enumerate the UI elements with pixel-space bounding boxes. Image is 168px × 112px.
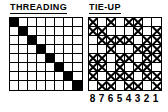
threading-cell[interactable] bbox=[10, 54, 19, 63]
threading-cell[interactable] bbox=[19, 81, 28, 90]
threading-cell[interactable] bbox=[10, 63, 19, 72]
threading-cell[interactable] bbox=[37, 18, 46, 27]
tieup-cell[interactable] bbox=[143, 36, 152, 45]
tieup-cell[interactable] bbox=[98, 27, 107, 36]
tieup-cell[interactable] bbox=[152, 27, 161, 36]
threading-cell[interactable] bbox=[55, 81, 64, 90]
threading-cell[interactable] bbox=[37, 36, 46, 45]
tieup-cell[interactable] bbox=[116, 36, 125, 45]
tieup-cell[interactable] bbox=[134, 81, 143, 90]
tieup-cell[interactable] bbox=[107, 81, 116, 90]
tieup-cell[interactable] bbox=[107, 63, 116, 72]
threading-cell[interactable] bbox=[28, 45, 37, 54]
tieup-cell[interactable] bbox=[125, 45, 134, 54]
tieup-cell[interactable] bbox=[89, 36, 98, 45]
tieup-cell[interactable] bbox=[98, 18, 107, 27]
threading-cell[interactable] bbox=[28, 63, 37, 72]
threading-cell[interactable] bbox=[19, 18, 28, 27]
threading-cell[interactable] bbox=[73, 63, 82, 72]
threading-cell[interactable] bbox=[46, 18, 55, 27]
threading-cell[interactable] bbox=[46, 63, 55, 72]
tieup-cell[interactable] bbox=[116, 81, 125, 90]
threading-cell[interactable] bbox=[19, 45, 28, 54]
tieup-cell[interactable] bbox=[89, 45, 98, 54]
tieup-cell[interactable] bbox=[107, 18, 116, 27]
tieup-cell[interactable] bbox=[134, 63, 143, 72]
tieup-cell[interactable] bbox=[152, 36, 161, 45]
tieup-cell[interactable] bbox=[152, 54, 161, 63]
tieup-cell[interactable] bbox=[98, 63, 107, 72]
threading-cell[interactable] bbox=[64, 54, 73, 63]
tieup-cell[interactable] bbox=[107, 45, 116, 54]
tieup-cell[interactable] bbox=[89, 54, 98, 63]
tieup-cell[interactable] bbox=[143, 54, 152, 63]
tieup-cell[interactable] bbox=[107, 72, 116, 81]
tieup-cell[interactable] bbox=[98, 36, 107, 45]
threading-cell[interactable] bbox=[37, 63, 46, 72]
tieup-cell[interactable] bbox=[134, 36, 143, 45]
threading-cell[interactable] bbox=[64, 18, 73, 27]
tieup-cell[interactable] bbox=[125, 18, 134, 27]
tieup-cell[interactable] bbox=[152, 18, 161, 27]
threading-cell[interactable] bbox=[10, 72, 19, 81]
tieup-cell[interactable] bbox=[125, 81, 134, 90]
tieup-cell[interactable] bbox=[143, 27, 152, 36]
threading-cell[interactable] bbox=[10, 81, 19, 90]
tieup-cell[interactable] bbox=[98, 54, 107, 63]
tieup-cell[interactable] bbox=[125, 63, 134, 72]
tieup-cell[interactable] bbox=[107, 54, 116, 63]
threading-cell[interactable] bbox=[55, 27, 64, 36]
threading-cell[interactable] bbox=[55, 72, 64, 81]
tieup-cell[interactable] bbox=[116, 72, 125, 81]
threading-cell[interactable] bbox=[10, 45, 19, 54]
threading-cell[interactable] bbox=[46, 36, 55, 45]
tieup-cell[interactable] bbox=[116, 54, 125, 63]
tieup-cell[interactable] bbox=[98, 81, 107, 90]
threading-cell[interactable] bbox=[64, 72, 73, 81]
threading-cell[interactable] bbox=[46, 54, 55, 63]
threading-cell[interactable] bbox=[64, 27, 73, 36]
tieup-cell[interactable] bbox=[143, 45, 152, 54]
tieup-cell[interactable] bbox=[152, 72, 161, 81]
threading-cell[interactable] bbox=[55, 18, 64, 27]
threading-cell[interactable] bbox=[28, 54, 37, 63]
tieup-cell[interactable] bbox=[143, 81, 152, 90]
threading-cell[interactable] bbox=[19, 54, 28, 63]
tieup-cell[interactable] bbox=[125, 27, 134, 36]
threading-grid[interactable] bbox=[9, 17, 83, 91]
tieup-cell[interactable] bbox=[89, 72, 98, 81]
threading-cell[interactable] bbox=[46, 81, 55, 90]
threading-cell[interactable] bbox=[73, 81, 82, 90]
threading-cell[interactable] bbox=[46, 72, 55, 81]
tieup-cell[interactable] bbox=[125, 72, 134, 81]
tieup-cell[interactable] bbox=[125, 54, 134, 63]
threading-cell[interactable] bbox=[73, 72, 82, 81]
tieup-cell[interactable] bbox=[134, 27, 143, 36]
tieup-cell[interactable] bbox=[98, 72, 107, 81]
threading-cell[interactable] bbox=[55, 45, 64, 54]
threading-cell[interactable] bbox=[64, 81, 73, 90]
threading-cell[interactable] bbox=[10, 27, 19, 36]
tieup-cell[interactable] bbox=[89, 27, 98, 36]
threading-cell[interactable] bbox=[28, 36, 37, 45]
tieup-cell[interactable] bbox=[134, 72, 143, 81]
threading-cell[interactable] bbox=[28, 27, 37, 36]
tieup-cell[interactable] bbox=[116, 27, 125, 36]
threading-cell[interactable] bbox=[37, 54, 46, 63]
tieup-cell[interactable] bbox=[143, 18, 152, 27]
threading-cell[interactable] bbox=[73, 36, 82, 45]
threading-cell[interactable] bbox=[28, 18, 37, 27]
threading-cell[interactable] bbox=[37, 72, 46, 81]
threading-cell[interactable] bbox=[37, 27, 46, 36]
tieup-cell[interactable] bbox=[125, 36, 134, 45]
threading-cell[interactable] bbox=[28, 81, 37, 90]
tieup-cell[interactable] bbox=[98, 45, 107, 54]
threading-cell[interactable] bbox=[55, 36, 64, 45]
tieup-cell[interactable] bbox=[116, 18, 125, 27]
tieup-cell[interactable] bbox=[152, 45, 161, 54]
threading-cell[interactable] bbox=[73, 45, 82, 54]
threading-cell[interactable] bbox=[10, 18, 19, 27]
tieup-cell[interactable] bbox=[107, 36, 116, 45]
threading-cell[interactable] bbox=[19, 36, 28, 45]
threading-cell[interactable] bbox=[46, 27, 55, 36]
